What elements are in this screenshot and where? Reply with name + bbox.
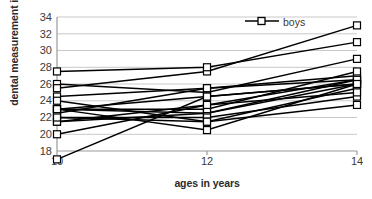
data-point-marker [354,89,361,96]
legend-swatch [245,18,279,25]
data-point-marker [54,97,61,104]
data-point-marker [354,22,361,29]
data-point-marker [54,114,61,121]
series-boy-10 [54,39,361,75]
data-series-layer [54,22,361,163]
data-point-marker [204,101,211,108]
data-point-marker [354,39,361,46]
data-point-marker [204,64,211,71]
data-point-marker [54,106,61,113]
data-point-marker [204,85,211,92]
data-point-marker [354,81,361,88]
data-point-marker [204,93,211,100]
data-point-marker [204,118,211,125]
data-point-marker [54,131,61,138]
data-point-marker [54,85,61,92]
series-boy-04 [54,22,361,92]
data-point-marker [54,68,61,75]
chart-plot-svg [0,0,372,199]
data-point-marker [354,101,361,108]
open-square-marker [258,18,265,25]
chart-container: dental measurement in mm ages in years 3… [0,0,372,199]
data-point-marker [354,68,361,75]
data-point-marker [354,55,361,62]
data-point-marker [204,127,211,134]
data-point-marker [54,156,61,163]
